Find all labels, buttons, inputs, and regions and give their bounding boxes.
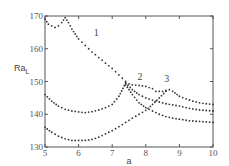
curve-labels: 123 [94, 27, 170, 84]
y-tick-label: 170 [30, 11, 44, 21]
y-axis: 130140150160170 [30, 11, 214, 152]
series-lower [44, 90, 167, 141]
y-tick-label: 160 [30, 44, 44, 54]
x-tick-label: 5 [43, 148, 48, 158]
x-tick-label: 10 [209, 148, 219, 158]
curve-label-2: 2 [137, 71, 142, 82]
y-tick-label: 140 [30, 109, 44, 119]
curve-label-1: 1 [94, 27, 99, 38]
plot-frame [45, 16, 213, 147]
x-tick-label: 9 [177, 148, 182, 158]
y-axis-label: RaL [14, 63, 30, 75]
data-series [44, 17, 214, 142]
y-tick-label: 150 [30, 77, 44, 87]
chart: 5678910 130140150160170 123 a RaL [0, 0, 229, 166]
series-upper-branch [125, 82, 214, 105]
x-tick-label: 6 [76, 148, 81, 158]
x-axis-label: a [126, 156, 131, 166]
y-tick-label: 130 [30, 142, 44, 152]
series-middle [44, 82, 214, 113]
x-tick-label: 7 [110, 148, 115, 158]
series-1 [44, 17, 126, 83]
x-tick-label: 8 [144, 148, 149, 158]
curve-label-3: 3 [164, 73, 169, 84]
